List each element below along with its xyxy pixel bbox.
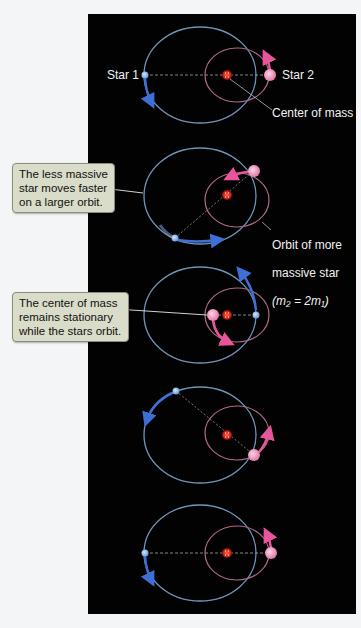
- center-of-mass-icon: [222, 310, 232, 320]
- center-of-mass-leader: [230, 79, 272, 110]
- center-of-mass-label: Center of mass: [272, 106, 353, 120]
- center-of-mass-icon: [222, 548, 232, 558]
- star2-icon: [264, 69, 276, 81]
- star2-icon: [265, 547, 277, 559]
- center-of-mass-icon: [222, 430, 232, 440]
- star2-label: Star 2: [282, 68, 314, 82]
- star1-motion-arrow-icon: [145, 556, 151, 580]
- mass-ratio-formula: (m₂ = 2m₁): [272, 294, 342, 308]
- orbit-massive-label: Orbit of more massive star (m₂ = 2m₁): [272, 224, 342, 322]
- panel-1: [142, 27, 277, 123]
- star1-label: Star 1: [107, 68, 139, 82]
- star1-icon: [253, 312, 260, 319]
- star1-icon: [142, 72, 149, 79]
- star1-icon: [142, 550, 149, 557]
- center-of-mass-icon: [222, 70, 232, 80]
- panel-5: [142, 505, 278, 601]
- star1-motion-arrow-icon: [178, 240, 218, 242]
- callout-center-of-mass: The center of mass remains stationary wh…: [12, 292, 129, 342]
- star1-icon: [173, 388, 180, 395]
- star1-icon: [172, 235, 179, 242]
- star1-motion-arrow-icon: [147, 393, 172, 420]
- orbit-leader: [262, 222, 271, 230]
- panel-4: [144, 387, 269, 483]
- star1-motion-arrow-icon: [145, 78, 151, 102]
- callout-less-massive: The less massive star moves faster on a …: [12, 163, 115, 213]
- panel-3: [116, 267, 269, 363]
- star2-icon: [248, 449, 260, 461]
- star2-icon: [248, 165, 260, 177]
- star2-icon: [207, 309, 219, 321]
- callout-leader: [116, 309, 207, 315]
- center-of-mass-icon: [222, 190, 232, 200]
- panel-2: [144, 148, 271, 244]
